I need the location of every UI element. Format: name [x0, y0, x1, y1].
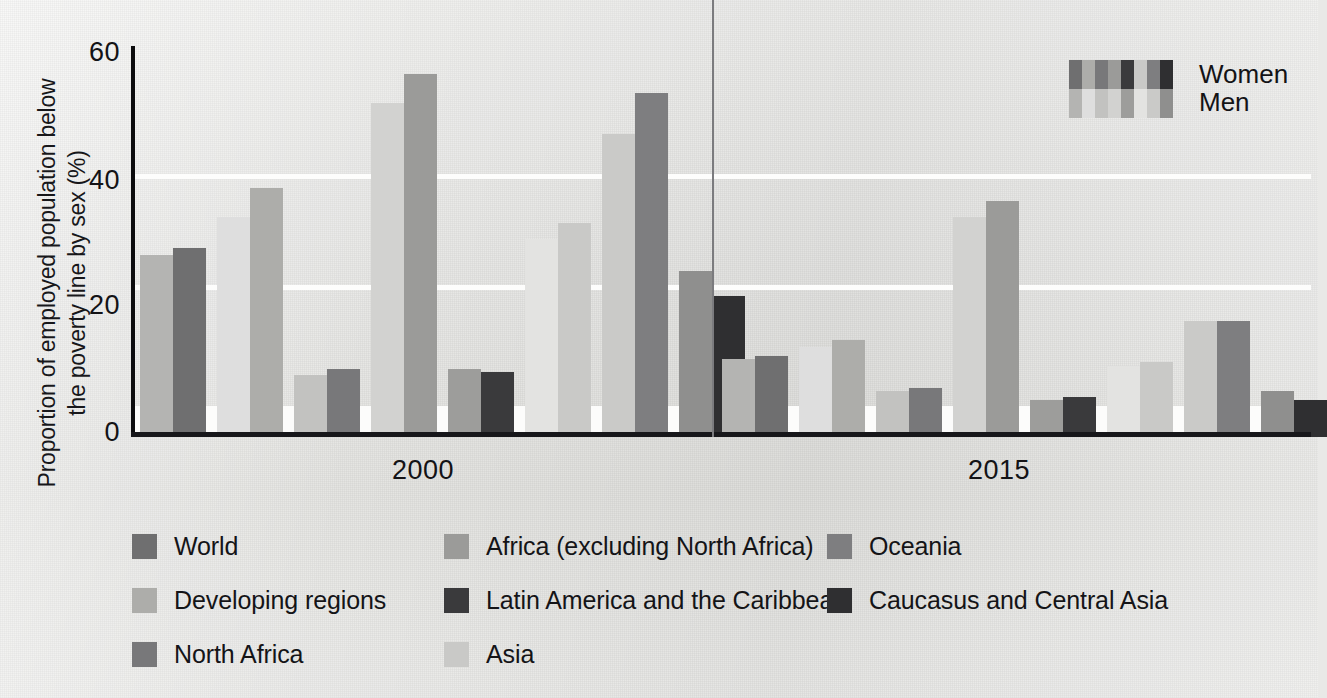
- bar-2000-latin-america-and-the-caribbean-women: [481, 372, 514, 437]
- sex-legend: Women Men: [1069, 60, 1288, 118]
- y-axis-line: [131, 46, 135, 436]
- legend-label: Africa (excluding North Africa): [486, 532, 814, 561]
- bar-2015-africa-excluding-north-africa-women: [986, 201, 1019, 437]
- legend-label: Oceania: [869, 532, 961, 561]
- region-legend: WorldAfrica (excluding North Africa)Ocea…: [132, 519, 1168, 681]
- y-axis-label: Proportion of employed population below …: [32, 73, 92, 493]
- bar-2015-asia-men: [1107, 366, 1140, 438]
- swatch-chip-4: [1121, 60, 1134, 89]
- legend-item-world: World: [132, 519, 444, 573]
- swatch-chip-7: [1160, 89, 1173, 118]
- swatch-chip-2: [1095, 60, 1108, 89]
- bar-2015-oceania-men: [1184, 321, 1217, 437]
- sex-legend-women: Women: [1069, 60, 1288, 89]
- legend-label: World: [174, 532, 238, 561]
- x-tick-2015: 2015: [968, 455, 1030, 486]
- bar-2000-developing-regions-men: [217, 217, 250, 437]
- sex-legend-men: Men: [1069, 89, 1288, 118]
- legend-item-north-africa: North Africa: [132, 627, 444, 681]
- bar-2000-africa-excluding-north-africa-women: [404, 74, 437, 437]
- bar-2000-asia-men: [525, 239, 558, 437]
- men-swatch: [1069, 89, 1173, 118]
- bar-2000-oceania-men: [602, 134, 635, 437]
- legend-label: Latin America and the Caribbean: [486, 586, 847, 615]
- bar-2000-latin-america-and-the-caribbean-men: [448, 369, 481, 437]
- bar-2015-oceania-women: [1217, 321, 1250, 437]
- swatch-chip-5: [1134, 89, 1147, 118]
- legend-swatch: [132, 642, 157, 667]
- legend-item-developing-regions: Developing regions: [132, 573, 444, 627]
- bar-2000-developing-regions-women: [250, 188, 283, 437]
- bar-2015-world-men: [722, 359, 755, 437]
- bar-2015-asia-women: [1140, 362, 1173, 437]
- swatch-chip-6: [1147, 60, 1160, 89]
- x-tick-2000: 2000: [392, 455, 454, 486]
- legend-swatch: [444, 642, 469, 667]
- bar-2000-world-men: [140, 255, 173, 437]
- legend-label: Developing regions: [174, 586, 386, 615]
- legend-swatch: [444, 588, 469, 613]
- legend-swatch: [444, 534, 469, 559]
- bar-2000-north-africa-women: [327, 369, 360, 437]
- bar-2015-world-women: [755, 356, 788, 437]
- bar-2015-developing-regions-men: [799, 347, 832, 438]
- legend-swatch: [827, 588, 852, 613]
- y-tick-60: 60: [62, 37, 120, 68]
- bar-2015-caucasus-and-central-asia-men: [1261, 391, 1294, 437]
- bar-2000-world-women: [173, 248, 206, 437]
- legend-item-asia: Asia: [444, 627, 827, 681]
- bar-2015-north-africa-women: [909, 388, 942, 437]
- women-swatch: [1069, 60, 1173, 89]
- legend-swatch: [827, 534, 852, 559]
- bar-2015-north-africa-men: [876, 391, 909, 437]
- swatch-chip-7: [1160, 60, 1173, 89]
- bar-2000-north-africa-men: [294, 375, 327, 437]
- swatch-chip-6: [1147, 89, 1160, 118]
- legend-label: Caucasus and Central Asia: [869, 586, 1168, 615]
- swatch-chip-0: [1069, 60, 1082, 89]
- legend-label: North Africa: [174, 640, 303, 669]
- legend-item-latin-america-and-the-caribbean: Latin America and the Caribbean: [444, 573, 827, 627]
- swatch-chip-2: [1095, 89, 1108, 118]
- bar-2015-africa-excluding-north-africa-men: [953, 217, 986, 437]
- bar-2000-africa-excluding-north-africa-men: [371, 103, 404, 437]
- legend-item-oceania: Oceania: [827, 519, 1168, 573]
- women-label: Women: [1199, 60, 1288, 89]
- bar-2000-asia-women: [558, 223, 591, 437]
- swatch-chip-5: [1134, 60, 1147, 89]
- swatch-chip-3: [1108, 60, 1121, 89]
- men-label: Men: [1199, 88, 1250, 117]
- legend-label: Asia: [486, 640, 534, 669]
- legend-swatch: [132, 534, 157, 559]
- x-axis-line: [131, 432, 1311, 437]
- legend-item-africa-excluding-north-africa: Africa (excluding North Africa): [444, 519, 827, 573]
- swatch-chip-4: [1121, 89, 1134, 118]
- legend-item-caucasus-and-central-asia: Caucasus and Central Asia: [827, 573, 1168, 627]
- bar-2015-developing-regions-women: [832, 340, 865, 437]
- legend-swatch: [132, 588, 157, 613]
- swatch-chip-3: [1108, 89, 1121, 118]
- bar-2000-caucasus-and-central-asia-men: [679, 271, 712, 438]
- swatch-chip-0: [1069, 89, 1082, 118]
- bar-2000-oceania-women: [635, 93, 668, 437]
- year-group-divider: [712, 0, 714, 437]
- swatch-chip-1: [1082, 89, 1095, 118]
- swatch-chip-1: [1082, 60, 1095, 89]
